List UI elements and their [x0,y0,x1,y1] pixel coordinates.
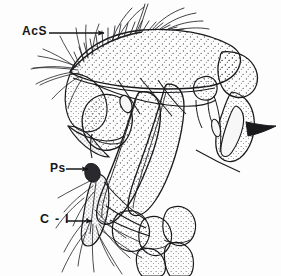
right-segment-outline [218,52,258,98]
tarsal-segments-group [112,206,195,276]
right-spur [246,122,276,136]
trochanter-knob [193,76,217,100]
label-acs: AcS [22,25,47,37]
anatomical-line-drawing [0,0,281,276]
tarsal-segment-4 [163,206,196,245]
figure-container: AcS Ps C - I [0,0,281,276]
ventral-process [85,163,100,182]
label-c1: C - I [40,213,70,226]
label-ps: Ps [50,162,66,174]
tarsal-segment-5 [164,242,193,276]
